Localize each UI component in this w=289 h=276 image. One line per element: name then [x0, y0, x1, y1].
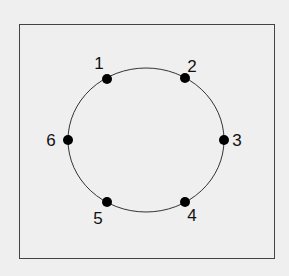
node-6	[63, 135, 73, 145]
node-5	[102, 197, 112, 207]
node-label-6: 6	[46, 131, 55, 150]
ring-diagram: 123456	[0, 0, 289, 276]
node-label-4: 4	[187, 206, 196, 225]
node-label-2: 2	[187, 57, 196, 76]
node-label-3: 3	[232, 131, 241, 150]
ring	[68, 68, 224, 212]
node-label-5: 5	[93, 209, 102, 228]
node-1	[102, 74, 112, 84]
node-3	[219, 135, 229, 145]
node-label-1: 1	[94, 54, 103, 73]
